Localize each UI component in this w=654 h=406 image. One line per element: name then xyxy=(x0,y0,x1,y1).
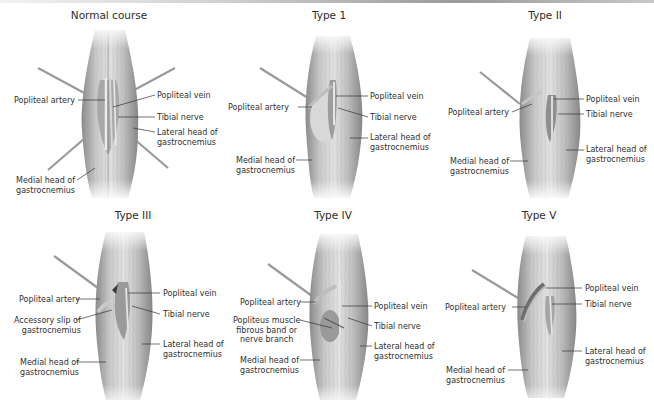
label-popliteal-vein: Popliteal vein xyxy=(586,95,640,105)
panel-type-4: Type IV Popliteal artery Popliteus muscl… xyxy=(220,200,438,406)
label-lateral-head: Lateral head of gastrocnemius xyxy=(585,347,646,366)
label-medial-head: Medial head of gastrocnemius xyxy=(446,366,505,385)
label-tibial-nerve: Tibial nerve xyxy=(163,310,210,320)
label-lateral-head: Lateral head of gastrocnemius xyxy=(370,133,431,152)
label-popliteus-muscle: Popliteus muscle fibrous band or nerve b… xyxy=(233,316,300,345)
label-popliteal-vein: Popliteal vein xyxy=(163,289,217,299)
label-popliteal-vein: Popliteal vein xyxy=(370,92,424,102)
panel-normal-course: Normal course Popliteal artery Popliteal… xyxy=(0,0,218,200)
label-popliteal-vein: Popliteal vein xyxy=(374,302,428,312)
label-accessory-slip: Accessory slip of gastrocnemius xyxy=(14,316,81,335)
label-medial-head: Medial head of gastrocnemius xyxy=(236,156,295,175)
panel-type-1: Type 1 Popliteal artery Popliteal vein T… xyxy=(220,0,438,200)
label-popliteal-artery: Popliteal artery xyxy=(445,303,506,313)
label-popliteal-artery: Popliteal artery xyxy=(19,295,80,305)
label-tibial-nerve: Tibial nerve xyxy=(585,300,632,310)
label-tibial-nerve: Tibial nerve xyxy=(370,113,417,123)
label-lateral-head: Lateral head of gastrocnemius xyxy=(586,145,647,164)
label-lateral-head: Lateral head of gastrocnemius xyxy=(157,128,218,147)
label-popliteal-vein: Popliteal vein xyxy=(585,284,639,294)
label-medial-head: Medial head of gastrocnemius xyxy=(16,176,75,195)
label-popliteal-artery: Popliteal artery xyxy=(228,103,289,113)
label-tibial-nerve: Tibial nerve xyxy=(374,322,421,332)
label-medial-head: Medial head of gastrocnemius xyxy=(240,356,299,375)
label-lateral-head: Lateral head of gastrocnemius xyxy=(163,340,224,359)
label-popliteal-artery: Popliteal artery xyxy=(14,96,75,106)
label-tibial-nerve: Tibial nerve xyxy=(586,110,633,120)
label-medial-head: Medial head of gastrocnemius xyxy=(450,157,509,176)
label-popliteal-artery: Popliteal artery xyxy=(240,298,301,308)
panel-type-3: Type III Popliteal artery Accessory slip… xyxy=(0,200,218,406)
label-lateral-head: Lateral head of gastrocnemius xyxy=(374,342,435,361)
label-tibial-nerve: Tibial nerve xyxy=(157,113,204,123)
panel-type-5: Type V Popliteal artery Popliteal vein T… xyxy=(436,200,654,406)
label-medial-head: Medial head of gastrocnemius xyxy=(20,358,79,377)
label-popliteal-artery: Popliteal artery xyxy=(448,108,509,118)
label-popliteal-vein: Popliteal vein xyxy=(157,91,211,101)
panel-type-2: Type II Popliteal artery Popliteal vein … xyxy=(436,0,654,200)
